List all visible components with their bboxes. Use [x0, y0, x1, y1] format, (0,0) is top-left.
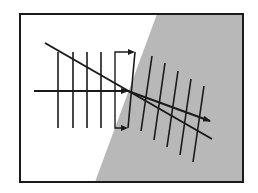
- bracket-top-arrowhead-icon: [128, 49, 135, 55]
- refraction-diagram: [0, 0, 258, 193]
- diagram-canvas: [0, 0, 258, 193]
- medium-2-region: [95, 14, 243, 182]
